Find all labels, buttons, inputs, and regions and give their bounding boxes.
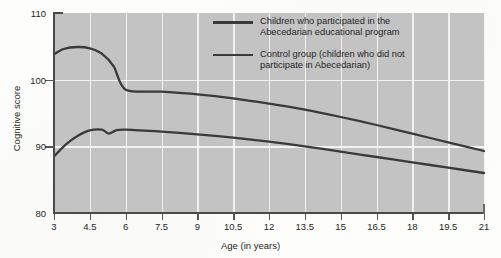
x-axis-tick bbox=[305, 214, 306, 220]
x-axis-tick-label: 12 bbox=[264, 221, 275, 232]
x-axis-tick bbox=[162, 214, 163, 220]
x-axis-tick-label: 6 bbox=[123, 221, 128, 232]
y-axis-tick-label: 110 bbox=[16, 8, 46, 19]
chart-figure: 34.567.5910.51213.51516.51819.5218090100… bbox=[0, 0, 501, 258]
legend-label-abecedarian-line1: Children who participated in the bbox=[260, 16, 400, 27]
x-axis-tick-label: 4.5 bbox=[83, 221, 96, 232]
x-axis-tick bbox=[448, 214, 449, 220]
y-axis-tick-label: 80 bbox=[16, 208, 46, 219]
legend-label-control-line2: participate in Abecedarian) bbox=[260, 60, 405, 71]
legend-swatch-abecedarian bbox=[213, 21, 253, 24]
legend-item-control: Control group (children who did not part… bbox=[213, 49, 463, 72]
x-axis-tick bbox=[54, 214, 55, 220]
x-axis-tick-label: 16.5 bbox=[367, 221, 386, 232]
legend-label-control: Control group (children who did not part… bbox=[260, 49, 405, 72]
legend-label-control-line1: Control group (children who did not bbox=[260, 49, 405, 60]
x-axis-tick bbox=[269, 214, 270, 220]
x-axis-tick-label: 15 bbox=[335, 221, 346, 232]
x-axis-tick bbox=[126, 214, 127, 220]
x-axis-tick-label: 18 bbox=[407, 221, 418, 232]
x-axis-tick-label: 7.5 bbox=[155, 221, 168, 232]
x-axis-tick bbox=[341, 214, 342, 220]
x-axis-tick bbox=[90, 214, 91, 220]
x-axis-tick bbox=[412, 214, 413, 220]
x-axis-tick bbox=[233, 214, 234, 220]
axis-right-nub bbox=[483, 204, 485, 214]
chart-legend: Children who participated in the Abeceda… bbox=[213, 16, 463, 82]
x-axis-tick-label: 19.5 bbox=[439, 221, 458, 232]
x-axis-title: Age (in years) bbox=[0, 240, 501, 251]
x-axis-tick-label: 9 bbox=[195, 221, 200, 232]
y-axis-line bbox=[53, 12, 55, 214]
y-axis-tick bbox=[45, 146, 54, 148]
legend-item-abecedarian: Children who participated in the Abeceda… bbox=[213, 16, 463, 39]
x-axis-tick-label: 21 bbox=[479, 221, 490, 232]
x-axis-tick-label: 3 bbox=[51, 221, 56, 232]
legend-swatch-control bbox=[213, 54, 253, 57]
legend-label-abecedarian: Children who participated in the Abeceda… bbox=[260, 16, 400, 39]
y-axis-title: Cognitive score bbox=[11, 59, 22, 179]
x-axis-tick bbox=[377, 214, 378, 220]
x-axis-tick bbox=[484, 214, 485, 220]
x-axis-tick-label: 13.5 bbox=[296, 221, 315, 232]
axis-top-nub bbox=[54, 12, 63, 14]
x-axis-tick-label: 10.5 bbox=[224, 221, 243, 232]
legend-label-abecedarian-line2: Abecedarian educational program bbox=[260, 27, 400, 38]
x-axis-tick bbox=[197, 214, 198, 220]
y-axis-tick bbox=[45, 80, 54, 82]
